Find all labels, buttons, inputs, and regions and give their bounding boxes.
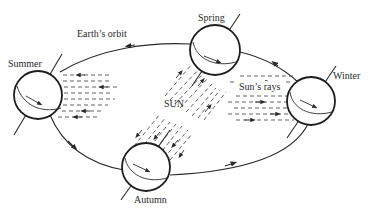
seasons-diagram: Earth’s orbit Summer Spring Winter Autum… [0, 0, 372, 210]
season-label-summer: Summer [8, 58, 43, 69]
earth-winter [287, 66, 336, 138]
earth-spring [190, 14, 240, 86]
earth-orbit [50, 44, 308, 175]
sun-rays-summer [58, 75, 118, 117]
season-label-autumn: Autumn [134, 194, 167, 205]
earth-autumn [121, 130, 170, 200]
season-label-spring: Spring [198, 12, 225, 23]
sun-label: SUN [164, 98, 184, 109]
orbit-arrow-icon [128, 45, 135, 46]
season-label-winter: Winter [333, 70, 361, 81]
orbit-label: Earth’s orbit [77, 28, 127, 39]
sun-rays-label: Sun’s rays [239, 81, 281, 92]
diagram-canvas: Earth’s orbit Summer Spring Winter Autum… [0, 0, 372, 210]
orbit-arrow-icon [68, 141, 75, 148]
orbit-arrow-icon [225, 163, 234, 166]
